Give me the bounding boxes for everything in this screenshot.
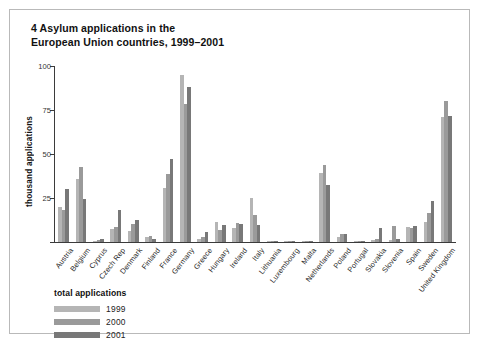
plot-area: 255075100 (54, 66, 456, 243)
bar[interactable] (135, 220, 139, 242)
bar-group[interactable] (298, 66, 315, 242)
bar-groups (55, 66, 455, 242)
bar[interactable] (396, 239, 400, 242)
figure-panel: 4 Asylum applications in the European Un… (9, 9, 470, 334)
y-axis-tick-label: 25 (43, 194, 51, 203)
legend-label: 1999 (106, 304, 126, 314)
bar-group[interactable] (281, 66, 298, 242)
y-axis-tick-mark (50, 242, 54, 243)
chart-title-line-1: 4 Asylum applications in the (31, 22, 361, 36)
legend-title: total applications (54, 288, 126, 298)
bar[interactable] (257, 225, 261, 242)
y-axis-tick-label: 50 (43, 150, 51, 159)
bar-group[interactable] (246, 66, 263, 242)
legend-label: 2000 (106, 317, 126, 327)
legend-label: 2001 (106, 330, 126, 340)
bar[interactable] (239, 224, 243, 242)
bar[interactable] (326, 185, 330, 242)
bar-group[interactable] (264, 66, 281, 242)
bar[interactable] (187, 87, 191, 242)
bar-group[interactable] (107, 66, 124, 242)
bar[interactable] (100, 239, 104, 242)
bar[interactable] (118, 210, 122, 242)
bar-group[interactable] (351, 66, 368, 242)
bar-group[interactable] (72, 66, 89, 242)
legend-swatch (54, 306, 100, 312)
legend-items: 199920002001 (54, 303, 126, 340)
bar-group[interactable] (368, 66, 385, 242)
bar-group[interactable] (125, 66, 142, 242)
bar[interactable] (448, 116, 452, 242)
y-axis-tick-label: 75 (43, 106, 51, 115)
bar-group[interactable] (403, 66, 420, 242)
bar[interactable] (413, 226, 417, 242)
legend-swatch (54, 319, 100, 325)
bar-group[interactable] (212, 66, 229, 242)
bar[interactable] (361, 241, 365, 242)
x-axis-label: Ireland (227, 246, 248, 270)
bar-group[interactable] (142, 66, 159, 242)
chart-title-line-2: European Union countries, 1999–2001 (31, 36, 361, 50)
y-axis-label: thousand applications (22, 96, 36, 226)
legend-item[interactable]: 1999 (54, 303, 126, 314)
bar[interactable] (274, 241, 278, 242)
bar-group[interactable] (194, 66, 211, 242)
bar[interactable] (309, 241, 313, 242)
bar-group[interactable] (385, 66, 402, 242)
bar[interactable] (292, 241, 296, 242)
legend-swatch (54, 332, 100, 338)
bar[interactable] (344, 234, 348, 242)
bar[interactable] (205, 232, 209, 242)
bar[interactable] (170, 159, 174, 242)
bar-group[interactable] (438, 66, 455, 242)
bar-group[interactable] (420, 66, 437, 242)
bar[interactable] (65, 189, 69, 242)
y-axis-tick-label: 100 (38, 62, 51, 71)
bar-group[interactable] (316, 66, 333, 242)
bar[interactable] (222, 225, 226, 242)
bar-group[interactable] (159, 66, 176, 242)
bar[interactable] (83, 199, 87, 242)
legend-item[interactable]: 2001 (54, 329, 126, 340)
bar[interactable] (152, 239, 156, 242)
bar[interactable] (431, 201, 435, 242)
legend: total applications 199920002001 (54, 288, 126, 342)
bar-group[interactable] (90, 66, 107, 242)
chart-title: 4 Asylum applications in the European Un… (31, 22, 361, 49)
x-axis-line (50, 242, 456, 243)
bar-group[interactable] (333, 66, 350, 242)
bar-group[interactable] (177, 66, 194, 242)
bar-group[interactable] (55, 66, 72, 242)
legend-item[interactable]: 2000 (54, 316, 126, 327)
bar[interactable] (379, 228, 383, 242)
bar-group[interactable] (229, 66, 246, 242)
